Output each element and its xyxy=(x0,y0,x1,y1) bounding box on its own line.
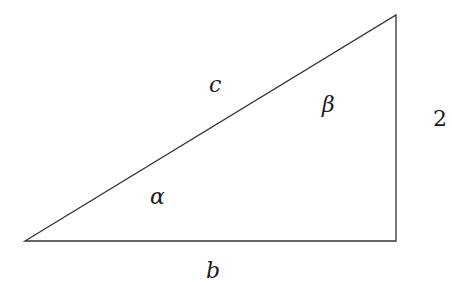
height-label: 2 xyxy=(433,106,447,131)
hypotenuse-label: c xyxy=(209,72,221,97)
triangle-shape xyxy=(25,15,396,241)
right-triangle-diagram: c β 2 α b xyxy=(0,0,452,283)
angle-alpha-label: α xyxy=(150,184,165,209)
angle-beta-label: β xyxy=(321,92,335,117)
base-label: b xyxy=(206,258,220,283)
